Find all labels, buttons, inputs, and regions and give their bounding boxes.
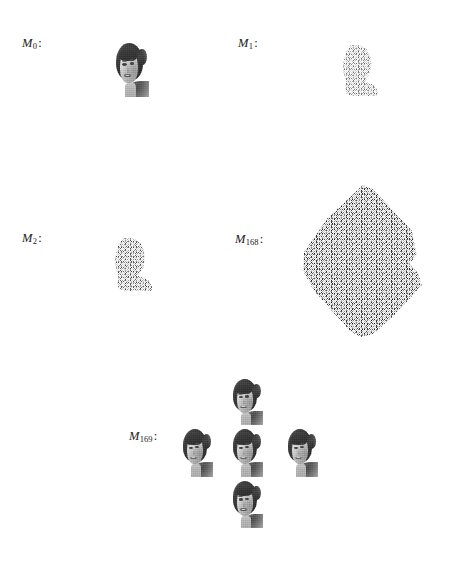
label-m2-base: M (22, 231, 33, 245)
label-m168: M168: (235, 232, 263, 247)
image-m169-face-right (285, 428, 318, 477)
label-m168-subscript: 168 (246, 237, 259, 247)
label-m169-base: M (129, 429, 140, 443)
label-m0-base: M (22, 36, 33, 50)
label-m1-base: M (238, 36, 249, 50)
image-m169-face-center (230, 428, 263, 477)
face-vignette (230, 428, 263, 477)
image-m168-pure-noise (299, 185, 427, 337)
face-vignette (285, 428, 318, 477)
image-m169-face-top (230, 378, 263, 425)
face-vignette (180, 428, 213, 477)
label-m1-colon: : (253, 36, 258, 50)
image-m169-face-bottom (230, 480, 263, 528)
label-m0: M0: (22, 36, 42, 51)
label-m2: M2: (22, 231, 42, 246)
image-m1-noisy-face (341, 45, 378, 96)
label-m169-colon: : (153, 429, 158, 443)
image-m169-face-left (180, 428, 213, 477)
image-m0-face (113, 42, 149, 97)
face-vignette (113, 42, 149, 97)
caption-fragment (420, 554, 454, 561)
label-m169: M169: (129, 429, 157, 444)
figure-root: M0: M1: M2: (0, 0, 454, 561)
face-vignette (230, 378, 263, 425)
label-m168-base: M (235, 232, 246, 246)
image-m2-noisy-face (113, 238, 152, 291)
label-m0-colon: : (37, 36, 42, 50)
face-vignette (230, 480, 263, 528)
label-m2-colon: : (37, 231, 42, 245)
label-m169-subscript: 169 (140, 434, 153, 444)
label-m168-colon: : (259, 232, 264, 246)
label-m1: M1: (238, 36, 258, 51)
